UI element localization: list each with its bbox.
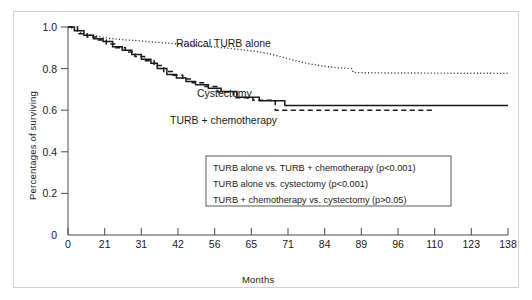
y-tick-label-5: 1.0	[42, 21, 57, 33]
y-tick-label-3: 0.6	[42, 104, 57, 116]
x-tick-label-1: 21	[99, 238, 111, 250]
y-tick-label-4: 0.8	[42, 63, 57, 75]
series-cystectomy	[68, 27, 508, 106]
x-tick-label-11: 123	[463, 238, 481, 250]
series-group	[68, 27, 508, 110]
y-tick-label-1: 0.2	[42, 187, 57, 199]
legend-line-1: TURB alone vs. TURB + chemotherapy (p<0.…	[213, 163, 416, 173]
x-tick-label-5: 65	[245, 238, 257, 250]
legend-line-3: TURB + chemotherapy vs. cystectomy (p>0.…	[213, 195, 407, 205]
legend-line-2: TURB alone vs. cystectomy (p<0.001)	[213, 179, 368, 189]
x-tick-label-4: 56	[209, 238, 221, 250]
x-tick-label-3: 42	[172, 238, 184, 250]
x-tick-label-8: 89	[355, 238, 367, 250]
x-tick-label-2: 31	[135, 238, 147, 250]
y-tick-label-2: 0.4	[42, 146, 57, 158]
x-tick-label-7: 84	[319, 238, 331, 250]
y-axis-tick-labels: 1.0 0.8 0.6 0.4 0.2 0	[42, 21, 57, 241]
x-axis-ticks	[68, 228, 508, 235]
survival-chart: 1.0 0.8 0.6 0.4 0.2 0	[14, 12, 520, 289]
x-axis-tick-labels: 0 21 31 42 56 65 71 84 89 96 110 123 138	[65, 238, 517, 250]
turb-chemo-label: TURB + chemotherapy	[170, 114, 278, 126]
x-tick-label-10: 110	[426, 238, 443, 250]
legend-box: TURB alone vs. TURB + chemotherapy (p<0.…	[206, 156, 451, 206]
x-tick-label-0: 0	[65, 238, 71, 250]
radical-turb-label: Radical TURB alone	[176, 37, 271, 49]
x-tick-label-9: 96	[392, 238, 404, 250]
y-axis-ticks	[61, 27, 68, 193]
y-tick-label-0: 0	[51, 229, 57, 241]
series-radical-turb-alone	[68, 27, 508, 73]
figure-container: 1.0 0.8 0.6 0.4 0.2 0	[0, 0, 532, 300]
x-tick-label-6: 71	[282, 238, 294, 250]
y-axis-title: Percentages of surviving	[27, 76, 38, 216]
cystectomy-label: Cystectomy	[197, 87, 253, 99]
x-axis-title: Months	[242, 274, 274, 285]
figure-outer-frame: 1.0 0.8 0.6 0.4 0.2 0	[13, 11, 519, 288]
x-tick-label-12: 138	[499, 238, 517, 250]
